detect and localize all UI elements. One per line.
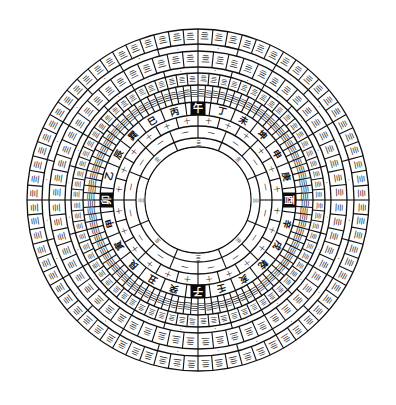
ring-glyph: 亖 (210, 315, 218, 325)
division-line (226, 54, 229, 70)
ring-glyph: 亖 (53, 281, 66, 294)
ring-glyph: 亖 (172, 357, 182, 368)
division-line (308, 134, 313, 137)
ring-glyph: 亖 (46, 118, 59, 131)
ring-glyph: 亖 (256, 319, 269, 332)
division-line (282, 187, 295, 189)
division-line (130, 172, 141, 177)
ring-glyph: ・ (54, 139, 60, 145)
division-line (209, 284, 211, 297)
ring-glyph: 亖 (254, 43, 266, 56)
ring-glyph: 亖 (229, 58, 240, 70)
ring-glyph: 亖 (313, 180, 323, 188)
ring-glyph: 亖 (267, 339, 280, 352)
ring-glyph: 亖 (62, 94, 75, 107)
ring-glyph: 亖 (116, 48, 129, 61)
ring-glyph: ・ (44, 178, 49, 183)
mountain-label: 壬 (216, 282, 228, 295)
division-line (209, 103, 211, 116)
ring-glyph: 亖 (157, 79, 166, 90)
ring-glyph: 亖 (157, 35, 168, 47)
division-line (327, 275, 333, 279)
division-line (277, 233, 289, 238)
division-line (247, 176, 255, 179)
division-line (303, 90, 308, 95)
division-line (277, 162, 289, 167)
ring-glyph: ・ (213, 68, 218, 73)
division-line (353, 214, 368, 215)
ring-glyph: 亖 (29, 188, 39, 197)
ring-glyph: 亖 (186, 358, 195, 368)
division-line (116, 178, 127, 181)
ring-glyph: ・ (54, 256, 60, 262)
ring-glyph: 亖 (115, 312, 128, 325)
ring-glyph: 亖 (172, 32, 182, 43)
ring-glyph: 亖 (73, 117, 86, 130)
division-line (231, 323, 233, 329)
ring-glyph: 亖 (256, 68, 269, 81)
division-line (250, 122, 258, 132)
division-line (130, 224, 141, 229)
ring-glyph: 亖 (77, 232, 88, 241)
ring-glyph: 亖 (279, 331, 292, 344)
division-line (313, 189, 325, 190)
division-line (141, 220, 149, 223)
ring-glyph: 亖 (189, 316, 196, 325)
ring-glyph: 亖 (29, 202, 39, 211)
ring-glyph: 亖 (220, 77, 229, 87)
ring-glyph: 亖 (171, 55, 181, 66)
ring-glyph: 亖 (116, 339, 129, 352)
ring-glyph: ・ (176, 348, 181, 353)
ring-glyph: 亖 (291, 323, 304, 336)
division-line (269, 178, 280, 181)
division-line (250, 267, 258, 277)
division-line (183, 30, 184, 45)
ring-glyph: ・ (336, 139, 342, 145)
ring-glyph: 亖 (220, 313, 229, 323)
ring-glyph: 亖 (352, 230, 364, 241)
ring-glyph: 亖 (254, 345, 266, 358)
mountain-label: 丙 (169, 106, 180, 118)
ring-glyph: ・ (346, 178, 351, 183)
ring-glyph: 亖 (115, 75, 128, 88)
ring-glyph: 亖 (53, 217, 64, 227)
division-line (218, 249, 221, 257)
ring-glyph: 亖 (291, 293, 304, 306)
division-line (120, 65, 124, 71)
division-line (212, 355, 213, 370)
ring-glyph: 亖 (280, 84, 293, 97)
ring-glyph: 亖 (214, 357, 224, 368)
ring-glyph: 亖 (200, 31, 209, 41)
ring-glyph: 亖 (291, 94, 304, 107)
ring-glyph: 亖 (190, 88, 199, 98)
mountain-label: 辛 (280, 218, 293, 230)
ring-glyph: 亖 (337, 269, 350, 282)
division-line (262, 85, 265, 90)
division-line (269, 219, 280, 222)
division-line (174, 249, 177, 257)
ring-glyph: 十 (184, 116, 192, 126)
division-line (262, 237, 272, 243)
ring-glyph: 亖 (41, 256, 54, 268)
ring-glyph: 亖 (33, 230, 45, 241)
ring-glyph: 一 (180, 262, 189, 272)
ring-glyph: ・ (179, 68, 184, 73)
ring-glyph: 亖 (241, 38, 253, 50)
ring-glyph: 亖 (337, 118, 350, 131)
ring-glyph: 亖 (41, 131, 54, 143)
ring-glyph: 亖 (72, 191, 81, 198)
ring-glyph: ・ (216, 348, 221, 353)
mountain-label: 甲 (104, 218, 116, 229)
ring-glyph: 十 (204, 274, 212, 284)
division-line (138, 122, 146, 132)
ring-glyph: 亖 (171, 334, 181, 345)
division-line (164, 323, 166, 329)
division-line (262, 158, 272, 164)
ring-glyph: 亖 (253, 198, 259, 204)
ring-glyph: 亖 (73, 270, 86, 283)
ring-glyph: 亖 (82, 105, 95, 118)
ring-glyph: 亖 (36, 145, 48, 157)
ring-glyph: 亖 (210, 75, 218, 85)
division-line (237, 344, 239, 351)
luopan-compass-diagram: 亖亖亖亖亖亖亖亖亖亖亖亖亖亖亖亖亖亖亖亖亖亖亖亖亖亖亖亖亖亖亖亖亖亖亖亖亖亖亖亖… (0, 0, 396, 405)
